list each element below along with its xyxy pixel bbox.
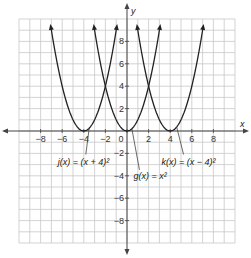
annotation-leader-g [132,129,140,170]
x-tick-label: −8 [35,134,45,144]
x-tick-label: 0 [118,134,123,144]
annotation-label-j: j(x) = (x + 4)² [57,157,111,167]
y-tick-label: −4 [114,171,124,181]
x-tick-label: −2 [100,134,110,144]
y-tick-label: 6 [119,59,124,69]
function-graph: −8−6−4−2024688642−2−4−6−8 j(x) = (x + 4)… [0,0,251,258]
y-axis-bottom-arrow [125,249,130,255]
annotation-label-k: k(x) = (x − 4)² [162,157,217,167]
x-tick-label: −6 [57,134,67,144]
x-tick-label: 4 [168,134,173,144]
x-tick-label: 8 [211,134,216,144]
y-axis-label: y [130,6,136,16]
y-tick-label: 2 [119,104,124,114]
y-tick-label: −2 [114,148,124,158]
annotation-label-g: g(x) = x² [133,171,167,181]
y-axis-top-arrow [125,3,130,9]
axes [2,3,249,255]
y-tick-label: −6 [114,193,124,203]
x-axis-label: x [239,119,245,129]
x-axis-left-arrow [2,129,8,134]
y-tick-label: −8 [114,216,124,226]
x-axis-right-arrow [243,129,249,134]
x-tick-label: 2 [146,134,151,144]
y-tick-label: 4 [119,81,124,91]
y-tick-label: 8 [119,36,124,46]
x-tick-label: 6 [189,134,194,144]
